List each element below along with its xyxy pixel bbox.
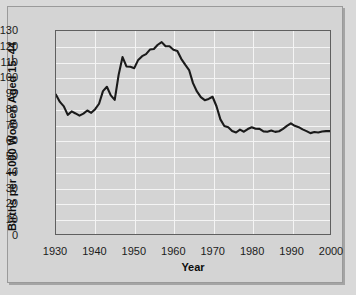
chart-figure: Births per 1,000 Women Aged 15–44 010203… [7,6,343,283]
y-axis-tick-label: 30 [6,182,18,193]
y-axis-tick-label: 110 [0,56,18,67]
series-layer [56,31,330,234]
x-axis-tick-label: 1970 [200,246,224,257]
x-axis-label: Year [55,261,331,273]
y-axis-tick-label: 40 [6,166,18,177]
y-axis-tick-label: 120 [0,40,18,51]
x-axis-tick-label: 1940 [82,246,106,257]
y-axis-tick-label: 10 [6,214,18,225]
x-axis-tick-label: 1980 [240,246,264,257]
x-axis-tick-label: 1990 [279,246,303,257]
x-axis-tick-label: 1960 [161,246,185,257]
plot-area-wrapper [55,30,331,235]
y-axis-tick-label: 80 [6,103,18,114]
y-axis-tick-label: 100 [0,72,18,83]
y-axis-tick-label: 130 [0,25,18,36]
y-axis-tick-label: 60 [6,135,18,146]
plot-area [55,30,331,235]
y-axis-tick-label: 90 [6,88,18,99]
y-axis-tick-label: 70 [6,119,18,130]
x-axis-tick-label: 1930 [43,246,67,257]
x-axis-tick-label: 1950 [122,246,146,257]
y-axis-tick-label: 50 [6,151,18,162]
y-axis-tick-label: 0 [12,230,18,241]
y-axis-tick-label: 20 [6,198,18,209]
x-axis-tick-label: 2000 [319,246,343,257]
fertility-rate-line [56,31,330,234]
